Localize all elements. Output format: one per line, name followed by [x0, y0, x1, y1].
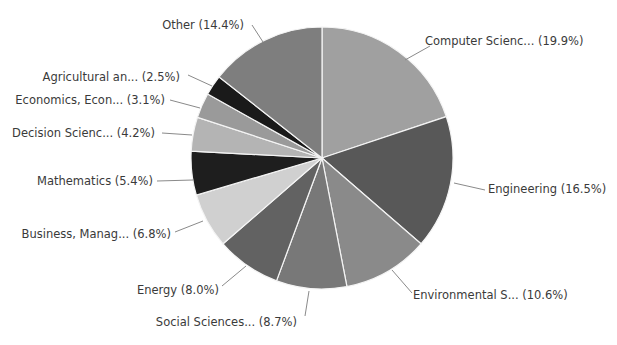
pie-chart: Computer Scienc... (19.9%)Engineering (1… — [0, 0, 617, 345]
leader-line — [170, 100, 200, 108]
slice-label: Economics, Econ... (3.1%) — [15, 93, 165, 107]
slice-label: Agricultural an... (2.5%) — [43, 70, 180, 84]
pie-slices — [191, 27, 453, 289]
slice-label: Other (14.4%) — [162, 18, 244, 32]
slice-label: Computer Scienc... (19.9%) — [425, 34, 583, 48]
slice-label: Environmental S... (10.6%) — [413, 288, 568, 302]
leader-line — [157, 180, 193, 181]
leader-line — [162, 133, 192, 135]
slice-label: Mathematics (5.4%) — [37, 174, 153, 188]
slice-label: Engineering (16.5%) — [488, 182, 606, 196]
slice-label: Energy (8.0%) — [137, 283, 219, 297]
leader-line — [175, 221, 203, 232]
leader-line — [454, 183, 485, 190]
leader-line — [305, 291, 309, 316]
leader-line — [188, 75, 212, 86]
slice-label: Business, Manag... (6.8%) — [22, 227, 171, 241]
leader-line — [222, 266, 246, 286]
leader-line — [392, 270, 412, 293]
slice-label: Social Sciences... (8.7%) — [156, 315, 297, 329]
leader-line — [252, 25, 263, 42]
leader-line — [405, 46, 430, 60]
slice-label: Decision Scienc... (4.2%) — [12, 126, 155, 140]
